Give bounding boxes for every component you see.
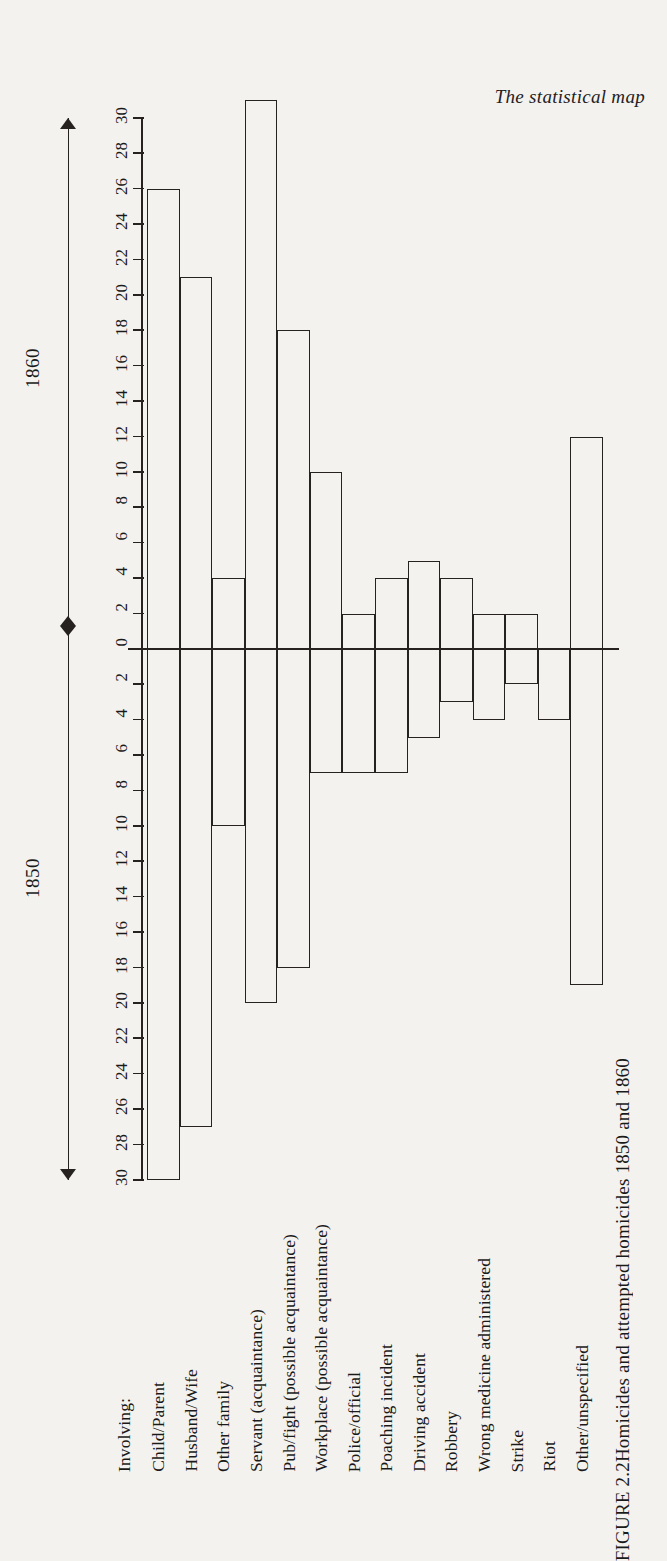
bar <box>538 649 571 720</box>
axis-tick-label: 28 <box>113 142 130 159</box>
bar <box>310 472 343 773</box>
axis-tick-label: 4 <box>113 709 130 718</box>
axis-tick-label: 18 <box>113 957 130 974</box>
axis-tick-label: 16 <box>113 921 130 938</box>
year-bracket-axis: 1860 1850 <box>56 118 82 1180</box>
plot-area <box>141 118 611 1180</box>
arrow-down-icon <box>60 1169 76 1180</box>
year-label-1850: 1850 <box>22 858 44 898</box>
axis-tick-label: 20 <box>113 992 130 1009</box>
category-label: Poaching incident <box>378 1344 396 1472</box>
figure-caption-label: FIGURE 2.2 <box>612 1462 633 1561</box>
bar <box>180 277 213 1127</box>
axis-tick-label: 16 <box>113 355 130 372</box>
arrow-mid-up-icon <box>60 626 76 636</box>
bar <box>212 578 245 826</box>
figure-caption: FIGURE 2.2Homicides and attempted homici… <box>612 1058 634 1561</box>
bar <box>440 578 473 702</box>
axis-tick-label: 0 <box>113 638 130 647</box>
bar <box>570 437 603 986</box>
axis-tick-label: 24 <box>113 213 130 230</box>
axis-tick-label: 8 <box>113 496 130 505</box>
axis-tick-label: 8 <box>113 780 130 789</box>
category-label: Riot <box>541 1441 559 1472</box>
year-label-1860: 1860 <box>22 348 44 388</box>
category-label: Police/official <box>346 1372 364 1472</box>
category-label: Wrong medicine administered <box>476 1258 494 1472</box>
category-label: Husband/Wife <box>183 1369 201 1472</box>
category-axis-header: Involving: <box>116 1398 134 1472</box>
axis-tick-label: 14 <box>113 886 130 903</box>
arrow-mid-down-icon <box>60 616 76 626</box>
bar <box>375 578 408 773</box>
category-label: Servant (acquaintance) <box>248 1309 266 1472</box>
axis-tick-label: 26 <box>113 1098 130 1115</box>
bar <box>408 561 441 738</box>
axis-tick-label: 26 <box>113 178 130 195</box>
category-label: Other family <box>215 1381 233 1472</box>
bar <box>245 100 278 1003</box>
axis-tick-label: 6 <box>113 744 130 753</box>
axis-tick-label: 10 <box>113 815 130 832</box>
year-axis-line <box>68 118 69 1180</box>
axis-tick-label: 2 <box>113 603 130 612</box>
axis-tick-label: 2 <box>113 673 130 682</box>
value-axis-scale: 3028262422201816141210864202468101214161… <box>96 118 144 1180</box>
axis-tick-label: 14 <box>113 390 130 407</box>
bar <box>473 614 506 720</box>
axis-tick-label: 22 <box>113 249 130 266</box>
category-label: Child/Parent <box>150 1382 168 1472</box>
figure-caption-text: Homicides and attempted homicides 1850 a… <box>612 1058 633 1462</box>
category-axis-labels: Involving:Child/ParentHusband/WifeOther … <box>100 1176 660 1476</box>
axis-tick-label: 10 <box>113 461 130 478</box>
axis-tick-label: 12 <box>113 426 130 443</box>
category-label: Robbery <box>443 1411 461 1472</box>
category-label: Pub/fight (possible acquaintance) <box>281 1234 299 1472</box>
bar <box>277 330 310 967</box>
bar <box>147 189 180 1180</box>
axis-tick-label: 22 <box>113 1027 130 1044</box>
category-label: Workplace (possible acquaintance) <box>313 1224 331 1472</box>
axis-tick-label: 18 <box>113 319 130 336</box>
axis-tick-label: 6 <box>113 532 130 541</box>
axis-tick-label: 4 <box>113 567 130 576</box>
category-label: Other/unspecified <box>574 1345 592 1472</box>
category-label: Driving accident <box>411 1353 429 1472</box>
axis-tick-label: 24 <box>113 1063 130 1080</box>
axis-tick-label: 20 <box>113 284 130 301</box>
axis-tick-label: 30 <box>113 107 130 124</box>
category-label: Strike <box>509 1430 527 1472</box>
axis-tick-label: 12 <box>113 850 130 867</box>
bar <box>505 614 538 685</box>
axis-tick-label: 28 <box>113 1134 130 1151</box>
bar <box>342 614 375 773</box>
arrow-up-icon <box>60 118 76 129</box>
